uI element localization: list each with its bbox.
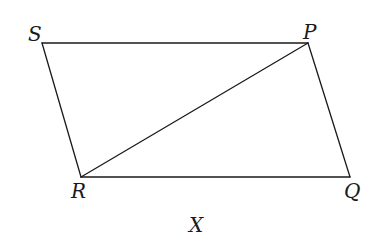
vertex-label-s: S <box>28 22 42 46</box>
vertex-label-r: R <box>70 179 86 203</box>
parallelogram-diagram: S P R Q X <box>0 0 382 241</box>
edges-group <box>42 43 350 177</box>
edge-rs <box>42 43 81 177</box>
edge-rp <box>81 43 308 177</box>
vertex-label-p: P <box>302 20 317 44</box>
vertex-label-q: Q <box>344 179 360 203</box>
figure-caption: X <box>187 213 204 237</box>
edge-pq <box>308 43 350 177</box>
